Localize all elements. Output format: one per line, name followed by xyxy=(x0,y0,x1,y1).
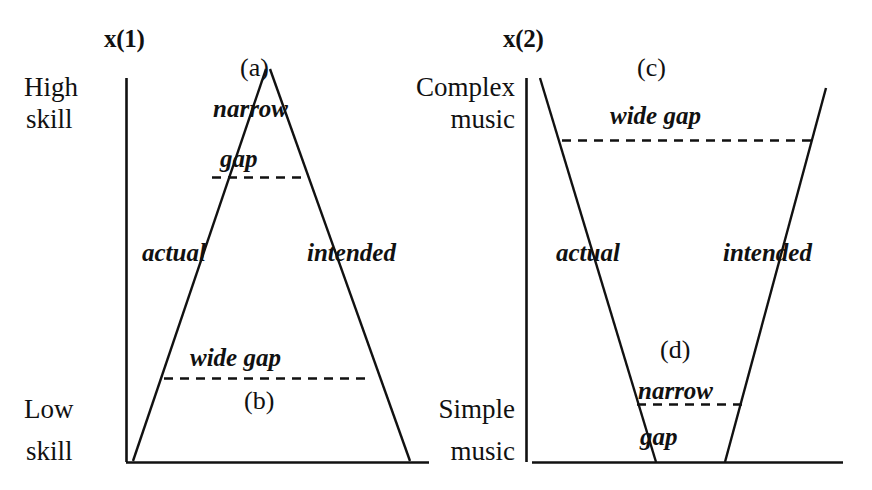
right-panel-intended-line xyxy=(725,88,826,462)
right-panel-intended-label: intended xyxy=(723,240,812,265)
right-panel-narrow-gap-label-line1: narrow xyxy=(638,378,713,403)
figure-canvas: x(1) High skill Low skill (a) narrow gap… xyxy=(0,0,872,490)
right-panel-actual-label: actual xyxy=(556,240,620,265)
right-panel-complex-label-line1: Complex xyxy=(385,74,515,101)
left-panel-low-label-line2: skill xyxy=(26,438,73,465)
left-panel-tag-a: (a) xyxy=(240,55,269,81)
right-panel-tag-c: (c) xyxy=(637,55,666,81)
left-panel-intended-label: intended xyxy=(307,240,396,265)
right-panel-artwork xyxy=(527,78,844,463)
right-panel-simple-label-line1: Simple xyxy=(385,396,515,423)
right-panel-wide-gap-label: wide gap xyxy=(610,103,701,128)
left-panel-tag-b: (b) xyxy=(244,388,274,414)
right-panel-tag-d: (d) xyxy=(660,337,690,363)
left-panel-low-label-line1: Low xyxy=(24,396,74,423)
left-panel-narrow-gap-label-line2: gap xyxy=(220,146,258,171)
left-panel-high-label-line1: High xyxy=(24,74,78,101)
right-panel-narrow-gap-label-line2: gap xyxy=(640,424,678,449)
left-panel-narrow-gap-label-line1: narrow xyxy=(213,96,288,121)
left-panel-high-label-line2: skill xyxy=(26,106,73,133)
left-panel-axis-name: x(1) xyxy=(104,26,144,51)
right-panel-axis-name: x(2) xyxy=(503,26,543,51)
right-panel-simple-label-line2: music xyxy=(385,438,515,465)
left-panel-actual-label: actual xyxy=(142,240,206,265)
left-panel-wide-gap-label: wide gap xyxy=(190,345,281,370)
right-panel-complex-label-line2: music xyxy=(385,106,515,133)
